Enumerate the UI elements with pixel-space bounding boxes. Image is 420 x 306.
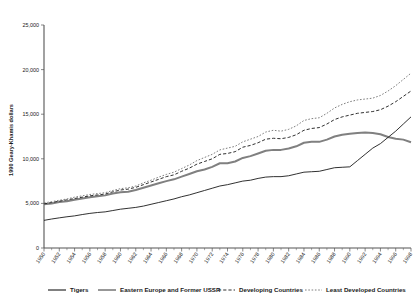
- y-axis-ticks: 05,00010,00015,00020,00025,000: [23, 22, 45, 251]
- x-tick-label: 1960: [111, 251, 123, 264]
- y-axis-label: 1990 Geary-Khamis dollars: [8, 104, 14, 176]
- x-tick-label: 1988: [325, 251, 337, 264]
- y-tick-label: 0: [36, 245, 39, 251]
- x-tick-label: 1998: [402, 251, 414, 264]
- x-tick-label: 1990: [340, 251, 352, 264]
- x-tick-label: 1978: [249, 251, 261, 264]
- chart-legend: TigersEastern Europe and Former USSRDeve…: [48, 286, 406, 293]
- x-tick-label: 1994: [371, 251, 383, 264]
- x-tick-label: 1980: [264, 251, 276, 264]
- x-tick-label: 1970: [187, 251, 199, 264]
- x-tick-label: 1968: [172, 251, 184, 264]
- x-tick-label: 1976: [233, 251, 245, 264]
- chart-container: 1990 Geary-Khamis dollars 05,00010,00015…: [0, 0, 420, 306]
- y-axis-title: 1990 Geary-Khamis dollars: [8, 104, 14, 176]
- x-tick-label: 1992: [356, 251, 368, 264]
- x-tick-label: 1986: [310, 251, 322, 264]
- series-lines: [44, 73, 411, 220]
- x-tick-label: 1974: [218, 251, 230, 264]
- x-tick-label: 1996: [386, 251, 398, 264]
- x-tick-label: 1972: [203, 251, 215, 264]
- x-tick-label: 1984: [294, 251, 306, 264]
- series-line-0: [44, 132, 411, 204]
- legend-label-2: Developing Countries: [239, 286, 304, 293]
- line-chart: 1990 Geary-Khamis dollars 05,00010,00015…: [0, 0, 420, 306]
- x-tick-label: 1950: [35, 251, 47, 264]
- y-tick-label: 10,000: [23, 156, 40, 162]
- x-tick-label: 1954: [65, 251, 77, 264]
- y-tick-label: 15,000: [23, 111, 40, 117]
- x-tick-label: 1966: [157, 251, 169, 264]
- x-tick-label: 1982: [279, 251, 291, 264]
- y-tick-label: 25,000: [23, 22, 40, 28]
- series-line-2: [44, 91, 411, 204]
- x-tick-label: 1964: [142, 251, 154, 264]
- x-tick-label: 1962: [126, 251, 138, 264]
- legend-label-3: Least Developed Countries: [326, 286, 406, 293]
- x-tick-label: 1956: [80, 251, 92, 264]
- legend-label-0: Tigers: [70, 286, 89, 293]
- series-line-3: [44, 73, 411, 203]
- x-tick-label: 1952: [50, 251, 62, 264]
- y-tick-label: 20,000: [23, 67, 40, 73]
- x-tick-label: 1958: [96, 251, 108, 264]
- legend-label-1: Eastern Europe and Former USSR: [120, 286, 221, 293]
- x-axis-ticks: 1950195219541956195819601962196419661968…: [35, 248, 414, 264]
- y-tick-label: 5,000: [26, 200, 40, 206]
